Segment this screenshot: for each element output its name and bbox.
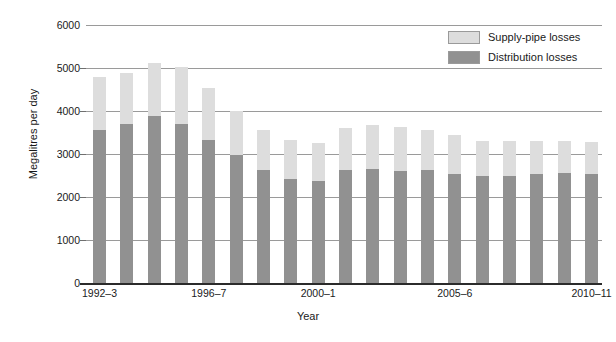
bar-segment-supply-pipe-losses <box>394 127 407 171</box>
bar-segment-distribution-losses <box>312 181 325 283</box>
bar-segment-supply-pipe-losses <box>175 67 188 124</box>
bar-segment-supply-pipe-losses <box>421 130 434 170</box>
bar-segment-distribution-losses <box>394 171 407 283</box>
bar-group <box>284 25 297 283</box>
bar-segment-distribution-losses <box>339 170 352 283</box>
bar-group <box>421 25 434 283</box>
legend-item: Supply-pipe losses <box>448 29 580 46</box>
bar-segment-distribution-losses <box>558 173 571 283</box>
bar-group <box>339 25 352 283</box>
bar-segment-supply-pipe-losses <box>585 142 598 174</box>
y-axis-title: Megalitres per day <box>27 49 39 219</box>
bar-segment-supply-pipe-losses <box>448 135 461 174</box>
x-axis-title: Year <box>0 310 616 322</box>
stacked-bar-chart: 0100020003000400050006000 Megalitres per… <box>0 0 616 342</box>
bar-segment-supply-pipe-losses <box>120 73 133 124</box>
chart-legend: Supply-pipe lossesDistribution losses <box>448 29 580 69</box>
bar-segment-supply-pipe-losses <box>339 128 352 171</box>
bar-segment-supply-pipe-losses <box>93 77 106 130</box>
y-tick-label: 6000 <box>36 20 80 31</box>
legend-label: Distribution losses <box>488 51 577 64</box>
bar-group <box>202 25 215 283</box>
bar-segment-distribution-losses <box>148 116 161 283</box>
bar-segment-distribution-losses <box>366 169 379 283</box>
bar-segment-supply-pipe-losses <box>257 130 270 170</box>
bar-segment-distribution-losses <box>230 155 243 283</box>
legend-swatch-icon <box>448 51 480 64</box>
x-tick-label: 2005–6 <box>437 288 472 299</box>
bar-segment-supply-pipe-losses <box>312 143 325 181</box>
bar-segment-distribution-losses <box>585 174 598 283</box>
legend-swatch-icon <box>448 31 480 44</box>
bar-segment-distribution-losses <box>202 140 215 283</box>
bar-segment-distribution-losses <box>503 176 516 284</box>
bar-segment-supply-pipe-losses <box>476 141 489 176</box>
bar-segment-distribution-losses <box>421 170 434 283</box>
x-axis-baseline <box>80 283 602 285</box>
y-tick-label: 0 <box>36 278 80 289</box>
bar-segment-supply-pipe-losses <box>284 140 297 178</box>
y-tick-label: 3000 <box>36 149 80 160</box>
bar-group <box>93 25 106 283</box>
bar-group <box>394 25 407 283</box>
y-tick-label: 2000 <box>36 192 80 203</box>
x-tick-label: 1996–7 <box>191 288 226 299</box>
bar-segment-supply-pipe-losses <box>366 125 379 168</box>
bar-group <box>257 25 270 283</box>
bar-segment-distribution-losses <box>93 130 106 284</box>
bar-segment-distribution-losses <box>448 174 461 283</box>
bar-segment-distribution-losses <box>120 124 133 283</box>
x-tick-label: 2010–11 <box>571 288 611 299</box>
bar-segment-supply-pipe-losses <box>230 111 243 155</box>
bar-segment-supply-pipe-losses <box>503 141 516 176</box>
bar-group <box>175 25 188 283</box>
bar-group <box>585 25 598 283</box>
legend-item: Distribution losses <box>448 49 580 66</box>
x-tick-label: 1992–3 <box>82 288 117 299</box>
bar-segment-supply-pipe-losses <box>530 141 543 174</box>
y-tick-label: 1000 <box>36 235 80 246</box>
bar-group <box>366 25 379 283</box>
x-tick-label: 2000–1 <box>301 288 336 299</box>
bar-segment-supply-pipe-losses <box>148 63 161 116</box>
y-tick-label: 5000 <box>36 63 80 74</box>
bar-segment-supply-pipe-losses <box>558 141 571 173</box>
y-tick-label: 4000 <box>36 106 80 117</box>
bar-segment-distribution-losses <box>257 170 270 284</box>
bar-segment-distribution-losses <box>284 179 297 284</box>
bar-segment-supply-pipe-losses <box>202 88 215 140</box>
bar-segment-distribution-losses <box>175 124 188 283</box>
bar-group <box>120 25 133 283</box>
bar-group <box>230 25 243 283</box>
bar-group <box>312 25 325 283</box>
bar-group <box>148 25 161 283</box>
bar-segment-distribution-losses <box>476 176 489 283</box>
bar-segment-distribution-losses <box>530 174 543 283</box>
legend-label: Supply-pipe losses <box>488 31 580 44</box>
